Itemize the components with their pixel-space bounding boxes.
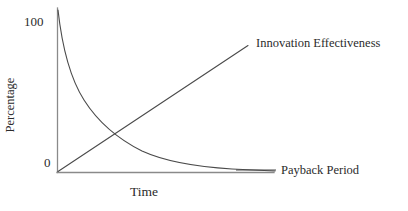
- x-axis-title: Time: [130, 185, 158, 199]
- series-label-innovation-effectiveness: Innovation Effectiveness: [256, 37, 380, 50]
- chart-plot-area: [0, 0, 408, 211]
- chart-figure: Percentage 100 0 Time Innovation Effecti…: [0, 0, 408, 211]
- y-axis-title-text: Percentage: [4, 78, 17, 133]
- y-axis-title: Percentage: [2, 62, 18, 148]
- y-axis-tick-100: 100: [24, 15, 44, 28]
- series-innovation-effectiveness-line: [58, 46, 248, 172]
- series-label-payback-period: Payback Period: [281, 164, 359, 177]
- series-payback-period-curve: [58, 10, 275, 171]
- series-group: [58, 10, 275, 172]
- y-axis-tick-0: 0: [44, 156, 51, 169]
- axes-group: [57, 8, 274, 173]
